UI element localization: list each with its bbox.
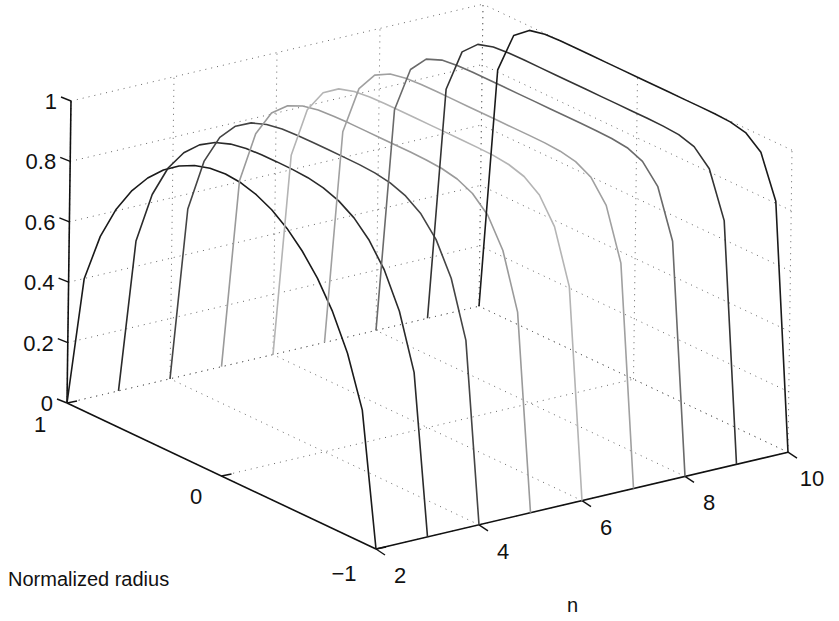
z-tick-label: 0.8 [26,149,57,174]
side-wall-gridline [482,65,791,211]
z-axis-line [67,101,71,403]
axes [57,97,797,555]
z-tick [60,157,70,161]
profile-curve-n=5 [222,106,531,513]
n-tick [582,501,591,507]
side-wall-gridline [788,150,792,452]
radius-tick-label: 0 [190,484,202,509]
n-tick [479,525,488,531]
n-tick [685,476,694,482]
z-tick [59,278,69,282]
n-tick-label: 6 [600,515,612,540]
n-tick-label: 4 [497,539,509,564]
z-tick-label: 0.4 [24,270,55,295]
profile-curve-n=10 [479,30,788,452]
n-tick-label: 8 [703,490,715,515]
n-tick-label: 2 [394,563,406,588]
back-wall-gridline [170,77,174,379]
back-wall-gridline [69,125,481,222]
radius-tick-label: 1 [34,412,46,437]
floor-gridline [170,379,479,525]
surface-line-plot: 00.20.40.60.8110−1246810 Normalized radi… [0,0,839,621]
back-wall-gridline [70,65,482,162]
z-tick-label: 0.2 [23,331,54,356]
back-wall-gridline [71,4,483,101]
profile-curve-n=2 [67,166,376,550]
z-tick-label: 0.6 [25,210,56,235]
profile-curve-n=9 [428,44,737,464]
tick-labels: 00.20.40.60.8110−1246810 [23,89,824,588]
profile-curves [67,30,788,549]
radius-tick-label: −1 [331,561,356,586]
grid-lines [67,4,792,549]
y-axis-label: Normalized radius [8,568,169,590]
radius-tick [67,401,77,403]
x-axis-label: n [567,594,578,616]
z-tick [61,97,71,101]
profile-curve-n=3 [119,143,428,537]
z-tick [59,218,69,222]
radius-tick [376,547,386,549]
z-tick [57,399,67,403]
n-tick-label: 10 [800,466,824,491]
floor-gridline [222,379,634,476]
n-tick [376,549,385,555]
side-wall-gridline [481,125,790,271]
z-tick [58,339,68,343]
radius-tick [222,474,232,476]
n-tick [788,452,797,458]
floor-gridline [273,355,582,501]
side-wall-gridline [634,77,638,379]
floor-gridline [376,330,685,476]
profile-curve-n=6 [273,89,582,501]
profile-curve-n=4 [170,123,479,525]
z-tick-label: 1 [45,89,57,114]
